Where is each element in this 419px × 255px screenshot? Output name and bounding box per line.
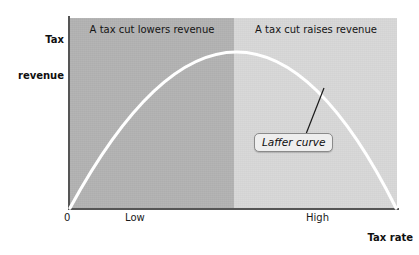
laffer-curve-callout: Laffer curve — [254, 133, 333, 152]
region-left-caption: A tax cut lowers revenue — [72, 24, 232, 35]
region-right-caption: A tax cut raises revenue — [236, 24, 396, 35]
y-axis-line — [68, 16, 70, 210]
region-tax-cut-raises-revenue — [234, 18, 397, 208]
region-tax-cut-lowers-revenue — [70, 18, 234, 208]
y-axis-title: Tax revenue — [4, 10, 64, 106]
x-axis-line — [68, 208, 399, 210]
plot-area — [70, 18, 397, 208]
y-axis-title-line2: revenue — [4, 70, 64, 82]
x-tick-label-high: High — [306, 212, 329, 223]
y-axis-title-line1: Tax — [4, 34, 64, 46]
x-tick-label-zero: 0 — [64, 212, 70, 223]
laffer-curve-figure: Tax revenue A tax cut lowers revenue A t… — [0, 0, 419, 255]
x-axis-title: Tax rate — [368, 232, 413, 244]
x-tick-label-low: Low — [125, 212, 145, 223]
